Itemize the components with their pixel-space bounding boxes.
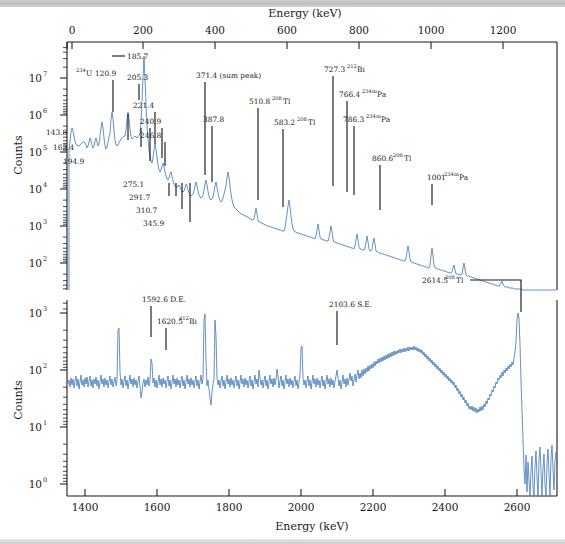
svg-text:10: 10: [29, 183, 42, 195]
top-spectrum-trace: [69, 56, 556, 290]
bottom-annotations: 1592.6 D.E. 1620.5 212 Bi 2103.6 S.E. 26…: [142, 274, 521, 350]
annotation-387-8: 387.8: [203, 115, 224, 182]
svg-text:7: 7: [43, 70, 47, 78]
top-xtick-600: 600: [277, 24, 297, 36]
bottom-xtick-1400: 1400: [72, 501, 99, 513]
svg-text:208: 208: [272, 95, 282, 101]
svg-text:1001: 1001: [427, 173, 446, 182]
top-ytick-labels: 10 7 10 6 10 5 10 4 10 3 10 2: [29, 70, 48, 269]
svg-text:Bi: Bi: [189, 317, 197, 326]
annotation-1001: 1001 234m Pa: [427, 171, 469, 205]
svg-text:766.4: 766.4: [339, 90, 360, 99]
annotation-860-6: 860.6 208 Tl: [372, 152, 412, 210]
annotation-2103-6: 2103.6 S.E.: [329, 300, 372, 345]
bottom-panel: Counts 10 3 10 2 10 1 10 0: [12, 274, 557, 533]
top-xtick-1000: 1000: [418, 24, 445, 36]
svg-text:194.9: 194.9: [63, 157, 84, 166]
bottom-xtick-labels: 1400 1600 1800 2000 2200 2400 2600: [72, 501, 531, 513]
svg-text:10: 10: [29, 109, 42, 121]
svg-text:246.8: 246.8: [140, 131, 161, 140]
annotation-2614-5: 2614.5 208 Tl: [422, 274, 521, 312]
annotation-120-9: 234 U 120.9: [76, 67, 116, 112]
bottom-xaxis-title: Energy (keV): [275, 520, 348, 533]
bottom-xtick-2200: 2200: [360, 501, 387, 513]
svg-text:4: 4: [43, 181, 47, 189]
bottom-ytick-1e0: 10 0: [29, 476, 48, 490]
top-xaxis-spine: [67, 42, 557, 49]
svg-text:212: 212: [179, 315, 189, 321]
svg-text:860.6: 860.6: [372, 154, 393, 163]
svg-text:205.3: 205.3: [127, 73, 148, 82]
svg-text:10: 10: [29, 72, 42, 84]
svg-text:221.4: 221.4: [133, 101, 154, 110]
top-annotations: 234 U 120.9 143.8 163.4 185.7: [46, 52, 469, 228]
svg-text:371.4 (sum peak): 371.4 (sum peak): [196, 71, 261, 80]
svg-text:234m: 234m: [366, 113, 381, 119]
svg-text:3: 3: [43, 305, 47, 313]
top-ytick-1e7: 10 7: [29, 70, 48, 84]
annotation-143-8: 143.8: [46, 114, 128, 140]
annotation-1620-5: 1620.5 212 Bi: [157, 315, 197, 350]
top-ytick-1e5: 10 5: [29, 144, 48, 158]
svg-text:291.7: 291.7: [129, 193, 150, 202]
svg-text:10: 10: [29, 146, 42, 158]
svg-text:212: 212: [347, 63, 357, 69]
svg-text:234m: 234m: [362, 88, 377, 94]
svg-text:Pa: Pa: [377, 90, 387, 99]
svg-text:583.2: 583.2: [274, 118, 295, 127]
bottom-xtick-2000: 2000: [288, 501, 315, 513]
svg-text:345.9: 345.9: [143, 219, 164, 228]
top-yaxis-title: Counts: [12, 135, 25, 175]
top-xtick-200: 200: [133, 24, 153, 36]
annotation-185-7: 185.7: [112, 52, 148, 61]
bottom-xtick-1800: 1800: [216, 501, 243, 513]
svg-text:10: 10: [29, 364, 42, 376]
svg-text:Pa: Pa: [459, 173, 469, 182]
svg-text:208: 208: [393, 152, 403, 158]
top-xtick-1200: 1200: [490, 24, 517, 36]
svg-text:6: 6: [43, 107, 47, 115]
svg-text:234: 234: [76, 67, 87, 73]
svg-text:143.8: 143.8: [46, 128, 67, 137]
svg-text:10: 10: [29, 478, 42, 490]
svg-text:510.8: 510.8: [249, 97, 270, 106]
top-xtick-400: 400: [205, 24, 225, 36]
top-xaxis-title: Energy (keV): [268, 7, 341, 20]
bottom-ytick-1e2: 10 2: [29, 362, 48, 376]
top-xtick-0: 0: [69, 24, 76, 36]
svg-text:10: 10: [29, 421, 42, 433]
bottom-ytick-1e3: 10 3: [29, 305, 48, 319]
gamma-spectrum-figure: Energy (keV) 0 200 400 600 800 1000 1200…: [0, 0, 565, 544]
svg-text:120.9: 120.9: [95, 69, 116, 78]
svg-text:2: 2: [43, 255, 47, 263]
annotation-583-2: 583.2 208 Tl: [274, 116, 316, 207]
svg-text:1: 1: [43, 419, 47, 427]
top-ytick-1e6: 10 6: [29, 107, 48, 121]
svg-text:208: 208: [445, 274, 455, 280]
annotation-194-9: 194.9: [63, 128, 150, 166]
svg-text:0: 0: [43, 476, 47, 484]
bottom-ytick-labels: 10 3 10 2 10 1 10 0: [29, 305, 48, 490]
svg-text:Pa: Pa: [381, 115, 391, 124]
bottom-ytick-1e1: 10 1: [29, 419, 48, 433]
svg-text:Tl: Tl: [283, 97, 291, 106]
svg-text:Tl: Tl: [404, 154, 412, 163]
bottom-yaxis-title: Counts: [12, 380, 25, 420]
svg-text:10: 10: [29, 220, 42, 232]
bottom-xtick-2400: 2400: [432, 501, 459, 513]
svg-text:185.7: 185.7: [127, 52, 148, 61]
svg-text:U: U: [86, 69, 92, 78]
svg-text:786.3: 786.3: [343, 115, 364, 124]
top-ytick-1e2: 10 2: [29, 255, 48, 269]
annotation-727-3: 727.3 212 Bi: [324, 63, 365, 186]
svg-text:Tl: Tl: [308, 118, 316, 127]
svg-text:208: 208: [297, 116, 307, 122]
bottom-spectrum-trace: [68, 313, 556, 496]
svg-text:Tl: Tl: [456, 276, 464, 285]
svg-text:234m: 234m: [444, 171, 459, 177]
svg-text:Bi: Bi: [357, 65, 365, 74]
svg-text:10: 10: [29, 307, 42, 319]
top-panel: Energy (keV) 0 200 400 600 800 1000 1200…: [12, 7, 557, 290]
bottom-xtick-2600: 2600: [504, 501, 531, 513]
svg-text:3: 3: [43, 218, 47, 226]
